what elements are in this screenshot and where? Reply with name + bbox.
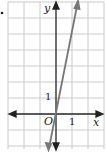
x-tick-label-1: 1: [69, 117, 75, 127]
y-axis-label: y: [44, 3, 50, 14]
origin-label: O: [44, 116, 53, 127]
y-tick-label-1: 1: [45, 92, 51, 102]
bullet-dot: [1, 12, 4, 15]
x-axis-label: x: [93, 117, 99, 128]
coordinate-plane: [0, 0, 106, 152]
